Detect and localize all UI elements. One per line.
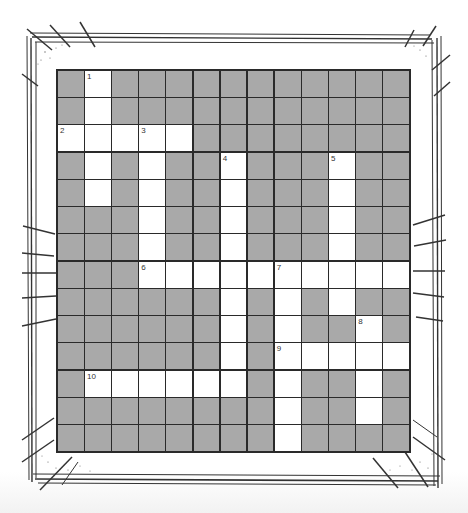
crossword-cell-open[interactable] bbox=[139, 371, 165, 397]
crossword-cell-block bbox=[356, 125, 382, 151]
crossword-cell-block bbox=[166, 343, 192, 369]
crossword-cell-open[interactable] bbox=[356, 398, 382, 424]
crossword-cell-open[interactable] bbox=[302, 262, 328, 288]
crossword-cell-block bbox=[166, 316, 192, 342]
crossword-cell-block bbox=[166, 98, 192, 124]
crossword-cell-block bbox=[248, 343, 274, 369]
crossword-cell-open[interactable] bbox=[85, 125, 111, 151]
crossword-cell-block bbox=[58, 425, 84, 451]
crossword-cell-block bbox=[112, 343, 138, 369]
crossword-cell-open[interactable] bbox=[275, 425, 301, 451]
crossword-cell-block bbox=[194, 207, 220, 233]
crossword-cell-open[interactable] bbox=[329, 262, 355, 288]
crossword-cell-open[interactable] bbox=[302, 343, 328, 369]
clue-number: 1 bbox=[87, 72, 91, 81]
crossword-cell-block bbox=[356, 153, 382, 179]
crossword-cell-block bbox=[112, 98, 138, 124]
crossword-cell-block bbox=[275, 207, 301, 233]
crossword-cell-open[interactable]: 6 bbox=[139, 262, 165, 288]
crossword-cell-open[interactable] bbox=[166, 262, 192, 288]
clue-number: 3 bbox=[141, 126, 145, 135]
crossword-cell-open[interactable] bbox=[275, 289, 301, 315]
crossword-cell-block bbox=[356, 207, 382, 233]
crossword-cell-open[interactable]: 9 bbox=[275, 343, 301, 369]
crossword-cell-open[interactable]: 10 bbox=[85, 371, 111, 397]
crossword-cell-block bbox=[166, 153, 192, 179]
crossword-cell-block bbox=[58, 71, 84, 97]
crossword-cell-open[interactable] bbox=[329, 180, 355, 206]
crossword-cell-block bbox=[139, 343, 165, 369]
crossword-cell-open[interactable] bbox=[221, 371, 247, 397]
crossword-cell-open[interactable] bbox=[221, 316, 247, 342]
crossword-cell-block bbox=[356, 289, 382, 315]
crossword-cell-open[interactable]: 1 bbox=[85, 71, 111, 97]
crossword-cell-block bbox=[248, 398, 274, 424]
crossword-cell-open[interactable] bbox=[194, 262, 220, 288]
crossword-cell-open[interactable] bbox=[383, 262, 409, 288]
crossword-cell-open[interactable]: 8 bbox=[356, 316, 382, 342]
crossword-cell-open[interactable] bbox=[221, 343, 247, 369]
crossword-cell-block bbox=[166, 71, 192, 97]
crossword-cell-block bbox=[275, 125, 301, 151]
crossword-cell-open[interactable] bbox=[166, 125, 192, 151]
crossword-cell-block bbox=[139, 98, 165, 124]
crossword-cell-open[interactable] bbox=[275, 398, 301, 424]
crossword-cell-open[interactable] bbox=[275, 371, 301, 397]
crossword-cell-block bbox=[139, 71, 165, 97]
crossword-cell-open[interactable] bbox=[275, 316, 301, 342]
crossword-cell-open[interactable]: 3 bbox=[139, 125, 165, 151]
crossword-cell-open[interactable] bbox=[139, 234, 165, 260]
crossword-cell-block bbox=[166, 207, 192, 233]
crossword-cell-open[interactable] bbox=[356, 343, 382, 369]
crossword-cell-open[interactable] bbox=[329, 289, 355, 315]
crossword-cell-block bbox=[275, 71, 301, 97]
crossword-cell-open[interactable] bbox=[139, 180, 165, 206]
crossword-cell-block bbox=[302, 71, 328, 97]
crossword-cell-open[interactable] bbox=[356, 371, 382, 397]
crossword-cell-open[interactable]: 5 bbox=[329, 153, 355, 179]
crossword-cell-block bbox=[383, 316, 409, 342]
crossword-cell-open[interactable]: 4 bbox=[221, 153, 247, 179]
crossword-cell-open[interactable] bbox=[329, 234, 355, 260]
crossword-cell-block bbox=[112, 71, 138, 97]
crossword-cell-block bbox=[383, 180, 409, 206]
crossword-cell-open[interactable] bbox=[112, 125, 138, 151]
crossword-cell-open[interactable] bbox=[85, 98, 111, 124]
crossword-cell-block bbox=[139, 425, 165, 451]
crossword-cell-block bbox=[194, 234, 220, 260]
crossword-cell-open[interactable] bbox=[383, 343, 409, 369]
clue-number: 9 bbox=[277, 344, 281, 353]
crossword-cell-block bbox=[112, 398, 138, 424]
crossword-cell-open[interactable] bbox=[139, 207, 165, 233]
crossword-cell-open[interactable]: 7 bbox=[275, 262, 301, 288]
crossword-cell-open[interactable] bbox=[85, 153, 111, 179]
crossword-cell-open[interactable] bbox=[194, 371, 220, 397]
crossword-cell-block bbox=[383, 125, 409, 151]
crossword-cell-open[interactable] bbox=[85, 180, 111, 206]
crossword-cell-open[interactable] bbox=[221, 207, 247, 233]
crossword-cell-block bbox=[194, 180, 220, 206]
crossword-cell-block bbox=[383, 398, 409, 424]
crossword-cell-block bbox=[329, 425, 355, 451]
crossword-cell-open[interactable] bbox=[248, 262, 274, 288]
crossword-cell-block bbox=[194, 289, 220, 315]
crossword-cell-block bbox=[58, 371, 84, 397]
crossword-cell-block bbox=[85, 234, 111, 260]
crossword-cell-open[interactable] bbox=[329, 343, 355, 369]
crossword-cell-open[interactable] bbox=[221, 289, 247, 315]
crossword-cell-open[interactable] bbox=[221, 234, 247, 260]
crossword-cell-open[interactable] bbox=[139, 153, 165, 179]
crossword-cell-block bbox=[248, 425, 274, 451]
crossword-cell-open[interactable] bbox=[356, 262, 382, 288]
crossword-cell-open[interactable] bbox=[329, 207, 355, 233]
crossword-cell-open[interactable] bbox=[221, 262, 247, 288]
crossword-cell-block bbox=[329, 371, 355, 397]
crossword-cell-open[interactable]: 2 bbox=[58, 125, 84, 151]
crossword-cell-block bbox=[166, 234, 192, 260]
crossword-cell-block bbox=[58, 343, 84, 369]
crossword-cell-block bbox=[302, 398, 328, 424]
crossword-cell-open[interactable] bbox=[221, 180, 247, 206]
crossword-cell-block bbox=[139, 316, 165, 342]
crossword-cell-open[interactable] bbox=[112, 371, 138, 397]
crossword-cell-open[interactable] bbox=[166, 371, 192, 397]
